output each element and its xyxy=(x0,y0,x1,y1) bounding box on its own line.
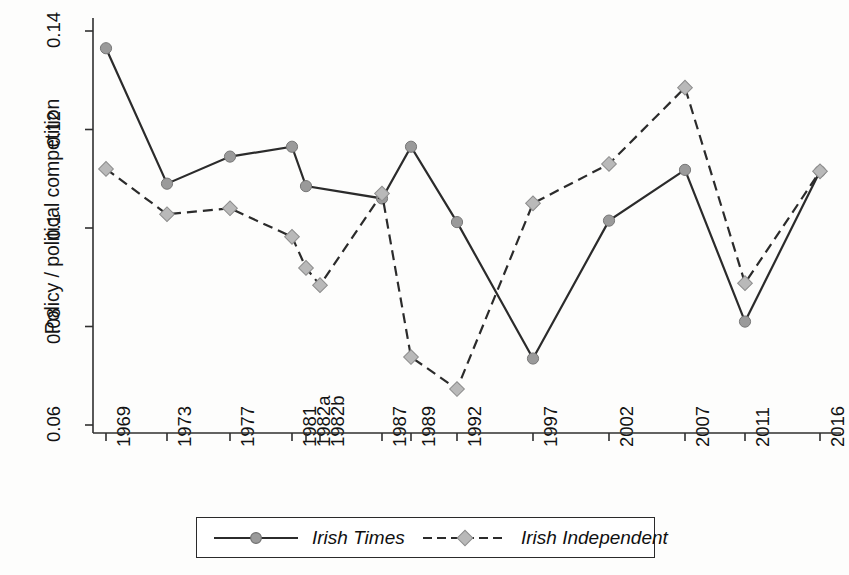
diamond-marker xyxy=(526,196,541,211)
circle-marker xyxy=(527,353,538,364)
diamond-marker xyxy=(813,164,828,179)
legend-label-irish-independent: Irish Independent xyxy=(521,527,668,549)
diamond-marker xyxy=(602,157,617,172)
diamond-marker xyxy=(223,201,238,216)
circle-marker xyxy=(603,215,614,226)
circle-marker xyxy=(451,216,462,227)
circle-marker xyxy=(100,43,111,54)
legend-item-irish-independent[interactable]: Irish Independent xyxy=(422,518,668,557)
circle-marker xyxy=(739,316,750,327)
circle-marker xyxy=(224,151,235,162)
solid-line-circle-marker-icon xyxy=(213,528,299,548)
chart-figure: Policy / political competition 0.140.120… xyxy=(0,0,849,575)
circle-marker xyxy=(161,178,172,189)
series-line-irish-times xyxy=(106,48,820,358)
diamond-marker xyxy=(738,276,753,291)
diamond-marker xyxy=(450,382,465,397)
dashed-line-diamond-marker-icon xyxy=(422,528,508,548)
circle-marker xyxy=(405,141,416,152)
chart-legend: Irish Times Irish Independent xyxy=(196,517,655,558)
circle-marker xyxy=(286,141,297,152)
circle-marker xyxy=(679,164,690,175)
legend-label-irish-times: Irish Times xyxy=(312,527,405,549)
circle-marker xyxy=(300,181,311,192)
diamond-marker xyxy=(285,230,300,245)
series-layer xyxy=(99,43,828,397)
legend-item-irish-times[interactable]: Irish Times xyxy=(213,518,405,557)
diamond-marker xyxy=(404,350,419,365)
plot-area xyxy=(0,0,849,460)
